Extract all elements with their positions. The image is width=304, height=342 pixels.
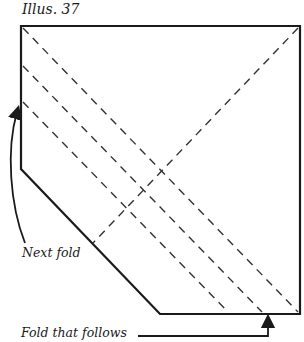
fold-that-follows-label: Fold that follows xyxy=(21,325,127,340)
fold-that-follows-arrow-icon xyxy=(138,321,268,336)
anti-diagonal-fold-line xyxy=(93,28,298,243)
next-fold-arrow-icon xyxy=(11,112,25,243)
next-fold-label: Next fold xyxy=(22,245,81,260)
fold-diagram xyxy=(0,0,304,342)
